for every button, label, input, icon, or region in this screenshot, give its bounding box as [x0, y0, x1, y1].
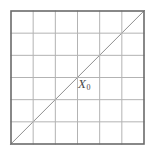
mesh-diagonal	[122, 11, 144, 33]
label-x0-subscript: 0	[86, 83, 90, 92]
figure-root: X0	[0, 0, 155, 162]
label-x0: X0	[78, 77, 90, 90]
label-x0-base: X	[78, 76, 86, 91]
